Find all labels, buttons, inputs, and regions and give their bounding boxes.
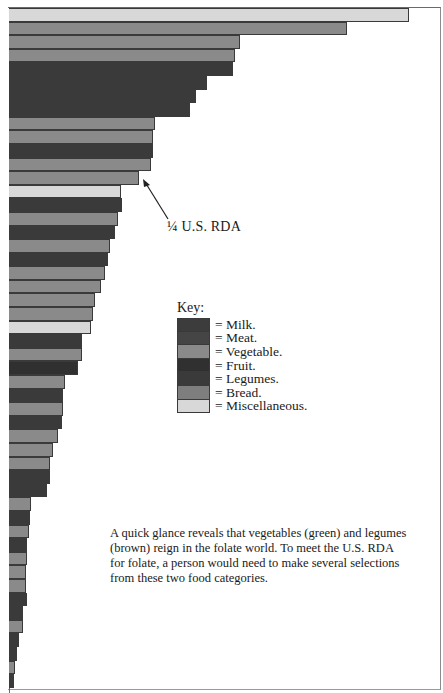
legend-swatch	[177, 372, 210, 386]
bar-vegetable	[9, 158, 151, 172]
bar-legumes	[9, 389, 63, 403]
legend-title: Key:	[177, 300, 307, 316]
legend-swatch	[177, 345, 210, 359]
legend-swatch	[177, 359, 210, 373]
bar-miscellaneous	[9, 8, 409, 22]
legend-item: = Miscellaneous.	[177, 400, 307, 414]
bar-vegetable	[9, 348, 82, 362]
bar-vegetable	[9, 497, 31, 511]
bar-legumes	[9, 484, 47, 498]
arrow-icon	[141, 179, 181, 221]
bar-legumes	[9, 593, 27, 607]
bar-legumes	[9, 674, 14, 688]
legend-swatch	[177, 318, 210, 332]
bar-vegetable	[9, 307, 93, 321]
bar-vegetable	[9, 49, 235, 63]
bar-legumes	[9, 470, 50, 484]
bar-miscellaneous	[9, 185, 121, 199]
bar-vegetable	[9, 620, 23, 634]
bar-vegetable	[9, 212, 118, 226]
legend-swatch	[177, 386, 210, 400]
bar-fruit	[9, 361, 78, 375]
bar-vegetable	[9, 171, 139, 185]
bar-legumes	[9, 416, 62, 430]
bar-vegetable	[9, 293, 95, 307]
bar-legumes	[9, 538, 27, 552]
caption-text: A quick glance reveals that vegetables (…	[110, 526, 410, 586]
legend-swatch	[177, 400, 210, 414]
bar-vegetable	[9, 579, 26, 593]
bar-vegetable	[9, 525, 29, 539]
bar-legumes	[9, 633, 19, 647]
bar-miscellaneous	[9, 321, 91, 335]
bar-legumes	[9, 226, 115, 240]
bar-vegetable	[9, 429, 58, 443]
bar-vegetable	[9, 375, 65, 389]
bar-vegetable	[9, 565, 26, 579]
bar-legumes	[9, 144, 153, 158]
bar-legumes	[9, 76, 207, 90]
bar-legumes	[9, 511, 30, 525]
bar-vegetable	[9, 443, 53, 457]
bar-legumes	[9, 198, 122, 212]
bar-vegetable	[9, 22, 347, 36]
bar-vegetable	[9, 35, 240, 49]
bar-vegetable	[9, 457, 50, 471]
legend: Key: = Milk.= Meat.= Vegetable.= Fruit.=…	[177, 300, 307, 413]
bar-vegetable	[9, 239, 110, 253]
bar-legumes	[9, 103, 190, 117]
bar-vegetable	[9, 130, 153, 144]
bar-legumes	[9, 647, 17, 661]
bar-vegetable	[9, 117, 155, 131]
bar-vegetable	[9, 552, 27, 566]
bar-legumes	[9, 90, 196, 104]
bar-vegetable	[9, 280, 101, 294]
bar-vegetable	[9, 661, 15, 675]
bar-vegetable	[9, 266, 105, 280]
rda-annotation: ¼ U.S. RDA	[167, 219, 241, 235]
bar-vegetable	[9, 402, 63, 416]
bar-legumes	[9, 62, 233, 76]
legend-swatch	[177, 332, 210, 346]
bar-legumes	[9, 606, 23, 620]
legend-label: = Miscellaneous.	[215, 398, 307, 414]
bar-legumes	[9, 253, 108, 267]
bar-legumes	[9, 334, 82, 348]
